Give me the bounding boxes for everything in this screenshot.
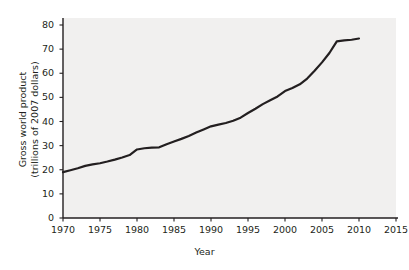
x-tick-label: 1995 — [228, 225, 268, 235]
y-axis-title-line2: (trillions of 2007 dollars) — [28, 40, 40, 200]
x-tick-label: 1970 — [43, 225, 83, 235]
y-axis-title-line1: Gross world product — [17, 40, 29, 200]
axis-lines — [63, 18, 398, 218]
x-axis-title: Year — [0, 246, 409, 257]
x-tick-label: 2010 — [339, 225, 379, 235]
x-tick-label: 2005 — [302, 225, 342, 235]
data-series-layer — [63, 39, 359, 173]
x-tick-label: 2015 — [376, 225, 409, 235]
y-tick-label: 0 — [30, 213, 54, 223]
x-tick-label: 1975 — [80, 225, 120, 235]
x-tick-label: 1985 — [154, 225, 194, 235]
y-axis-title: Gross world product (trillions of 2007 d… — [17, 40, 40, 200]
x-tick-label: 1990 — [191, 225, 231, 235]
x-tick-label: 1980 — [117, 225, 157, 235]
y-tick-label: 80 — [30, 20, 54, 30]
x-tick-label: 2000 — [265, 225, 305, 235]
gross-world-product-chart: 01020304050607080 1970197519801985199019… — [0, 0, 409, 270]
